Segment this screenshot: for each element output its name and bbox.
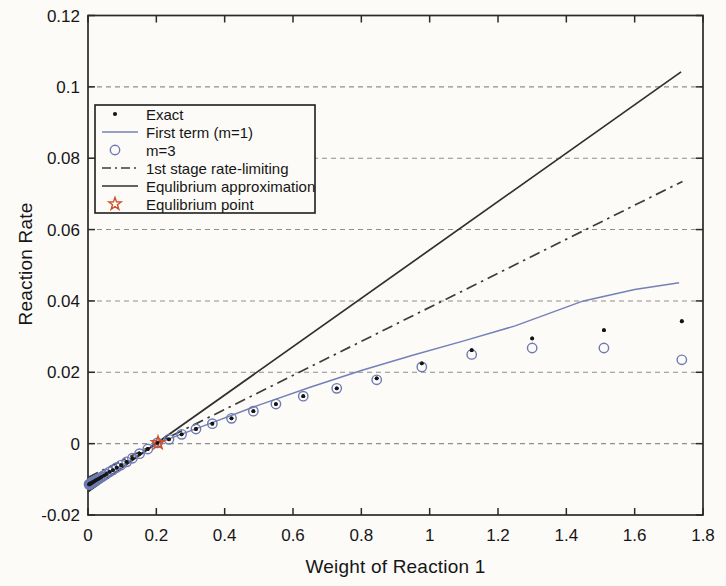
- series-point-exact: [470, 348, 474, 352]
- x-axis-label: Weight of Reaction 1: [88, 556, 703, 578]
- series-point-m-3: [527, 343, 536, 352]
- series-point-exact: [115, 466, 119, 470]
- series-point-exact: [119, 463, 123, 467]
- legend-label-first-term-m-1-: First term (m=1): [146, 124, 253, 141]
- y-tick-label: 0.02: [47, 363, 80, 382]
- series-point-exact: [335, 386, 339, 390]
- y-tick-label: 0.1: [56, 78, 80, 97]
- axes-box: [88, 16, 703, 516]
- series-point-exact: [155, 441, 159, 445]
- series-point-exact: [194, 427, 198, 431]
- y-tick-label: 0.12: [47, 7, 80, 26]
- series-point-exact: [111, 468, 115, 472]
- x-tick-label: 1.8: [691, 526, 715, 545]
- x-tick-label: 0: [83, 526, 92, 545]
- legend-label-equlibrium-point: Equlibrium point: [146, 196, 254, 213]
- series-point-exact: [146, 447, 150, 451]
- series-point-exact: [180, 432, 184, 436]
- series-point-exact: [210, 422, 214, 426]
- series-point-exact: [138, 452, 142, 456]
- legend-label-exact: Exact: [146, 106, 184, 123]
- series-point-exact: [125, 460, 129, 464]
- legend-label-equlibrium-approximation: Equlibrium approximation: [146, 178, 315, 195]
- y-axis-label: Reaction Rate: [15, 114, 37, 414]
- series-point-exact: [680, 319, 684, 323]
- plot-area: 00.20.40.60.811.21.41.61.8-0.0200.020.04…: [0, 0, 726, 586]
- series-point-exact: [375, 376, 379, 380]
- series-point-exact: [251, 409, 255, 413]
- y-tick-label: -0.02: [41, 506, 80, 525]
- series-point-exact: [108, 470, 112, 474]
- series-point-m-3: [599, 343, 608, 352]
- x-tick-label: 1: [425, 526, 434, 545]
- y-tick-label: 0: [71, 435, 80, 454]
- figure: 00.20.40.60.811.21.41.61.8-0.0200.020.04…: [0, 0, 726, 586]
- legend-label-m-3: m=3: [146, 142, 176, 159]
- series-point-exact: [301, 394, 305, 398]
- series-point-exact: [105, 472, 109, 476]
- series-point-exact: [230, 416, 234, 420]
- legend-label-1st-stage-rate-limiting: 1st stage rate-limiting: [146, 160, 289, 177]
- y-tick-label: 0.08: [47, 149, 80, 168]
- series-point-exact: [274, 402, 278, 406]
- series-point-exact: [420, 361, 424, 365]
- x-tick-label: 0.2: [145, 526, 169, 545]
- series-line-first-term-m-1-: [88, 283, 679, 488]
- x-tick-label: 0.6: [281, 526, 305, 545]
- legend-swatch-exact: [113, 112, 117, 116]
- y-tick-label: 0.06: [47, 221, 80, 240]
- x-tick-label: 1.4: [555, 526, 579, 545]
- series-point-exact: [167, 437, 171, 441]
- x-tick-label: 0.4: [213, 526, 237, 545]
- series-point-m-3: [677, 355, 686, 364]
- series-point-exact: [602, 328, 606, 332]
- x-tick-label: 0.8: [350, 526, 374, 545]
- series-point-exact: [131, 456, 135, 460]
- series-point-exact: [530, 336, 534, 340]
- x-tick-label: 1.2: [486, 526, 510, 545]
- y-tick-label: 0.04: [47, 292, 80, 311]
- x-tick-label: 1.6: [623, 526, 647, 545]
